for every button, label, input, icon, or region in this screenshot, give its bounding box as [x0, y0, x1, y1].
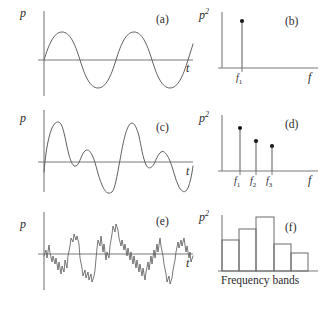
panel-d-marker-f1	[238, 126, 242, 130]
panel-e-y-label: p	[20, 218, 26, 230]
panel-e: p t	[38, 212, 193, 302]
panel-d: p2 f f1 f2 f3	[218, 115, 318, 177]
panel-b: p2 f f1	[218, 12, 318, 74]
panel-d-x-label: f	[308, 174, 311, 186]
panel-e-x-label: t	[186, 257, 189, 269]
panel-d-tag: (d)	[285, 119, 298, 131]
panel-c-tag: (c)	[156, 122, 169, 134]
panel-c-complex-curve	[44, 122, 193, 193]
panel-a-y-label: p	[20, 7, 26, 19]
panel-f-bar-4	[274, 244, 291, 271]
panel-b-marker-f1	[240, 19, 244, 23]
panel-f: p2 Frequency bands	[218, 215, 318, 277]
panel-d-y-label: p2	[199, 111, 209, 124]
panel-a-x-label: t	[186, 62, 189, 74]
frequency-spectra-figure: p t (a) p2 f f1 (b) p t (c)	[0, 0, 327, 310]
panel-c-x-label: t	[186, 165, 189, 177]
panel-f-bar-3	[256, 217, 274, 271]
panel-b-tag: (b)	[285, 16, 298, 28]
panel-b-tick-label-f1: f1	[236, 73, 242, 86]
panel-f-bar-1	[222, 240, 239, 271]
panel-d-plot	[218, 115, 318, 177]
panel-f-caption: Frequency bands	[221, 275, 299, 287]
panel-a-tag: (a)	[156, 14, 169, 26]
panel-d-marker-f3	[270, 144, 274, 148]
panel-f-tag: (f)	[285, 222, 297, 234]
panel-d-marker-f2	[254, 139, 258, 143]
panel-f-y-label: p2	[199, 210, 209, 223]
panel-d-tick-label-f2: f2	[250, 176, 256, 189]
panel-b-y-label: p2	[199, 8, 209, 21]
panel-e-tag: (e)	[156, 216, 169, 228]
panel-f-bar-5	[291, 253, 308, 271]
panel-f-bar-2	[239, 229, 256, 271]
panel-c: p t	[38, 110, 193, 205]
panel-f-plot	[218, 215, 318, 277]
panel-d-tick-label-f3: f3	[266, 176, 272, 189]
panel-e-plot	[38, 212, 193, 302]
panel-c-y-label: p	[20, 112, 26, 124]
panel-a: p t	[38, 8, 193, 98]
panel-c-plot	[38, 110, 193, 205]
panel-a-plot	[38, 8, 193, 98]
panel-d-tick-label-f1: f1	[234, 176, 240, 189]
panel-b-x-label: f	[308, 71, 311, 83]
panel-b-plot	[218, 12, 318, 74]
